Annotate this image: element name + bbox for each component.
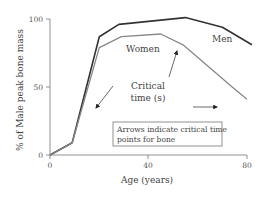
y-axis-title: % of Male peak bone mass: [15, 29, 25, 151]
x-tick-80: 80: [242, 161, 252, 170]
y-tick-100: 100: [29, 15, 44, 24]
y-tick-50: 50: [33, 83, 43, 92]
critical-time-label-line1: Critical: [131, 81, 165, 91]
x-axis-title: Age (years): [120, 175, 173, 185]
women-label: Women: [126, 44, 160, 54]
men-label: Men: [212, 34, 233, 44]
critical-time-label-line2: time (s): [131, 93, 166, 103]
bone-mass-chart: 100 50 0 0 40 80 Age (years) % of Male p…: [0, 0, 268, 200]
x-tick-40: 40: [143, 161, 153, 170]
note-line1: Arrows indicate critical time: [116, 125, 228, 134]
y-tick-0: 0: [38, 151, 43, 160]
y-axis: 100 50 0: [29, 15, 50, 160]
x-axis: 0 40 80: [48, 155, 252, 170]
x-tick-0: 0: [48, 161, 53, 170]
note-line2: points for bone: [117, 135, 176, 144]
arrow-growth-icon: [96, 86, 113, 108]
arrow-menopause-icon: [169, 51, 177, 77]
